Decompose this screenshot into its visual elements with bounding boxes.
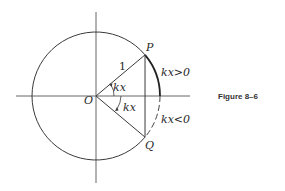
label-angle-lower: kx (123, 101, 137, 114)
label-origin: O (84, 94, 93, 107)
label-angle-upper: kx (113, 81, 127, 94)
radius-oq (96, 96, 145, 137)
arc-negative (145, 96, 160, 137)
label-arc-negative: kx<0 (161, 113, 190, 126)
angle-arc-lower (117, 96, 121, 109)
unit-circle-diagram: O P Q 1 kx kx kx>0 kx<0 Figure 8–6 (0, 0, 285, 191)
label-arc-positive: kx>0 (161, 66, 190, 79)
label-point-q: Q (145, 139, 154, 152)
label-point-p: P (145, 41, 154, 54)
arc-positive (145, 55, 160, 96)
label-radius: 1 (119, 60, 126, 73)
figure-caption: Figure 8–6 (218, 92, 259, 101)
